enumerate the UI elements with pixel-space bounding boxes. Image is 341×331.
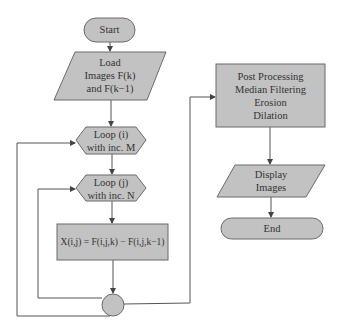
loop-j-line-2: with inc. N	[76, 189, 146, 202]
post-line-1: Post Processing	[216, 70, 325, 83]
end-label: End	[221, 222, 323, 235]
load-label-line-2: Images F(k)	[60, 69, 160, 82]
start-label: Start	[84, 23, 135, 36]
loop-i-line-1: Loop (i)	[76, 128, 146, 141]
loop-j-label: Loop (j) with inc. N	[76, 176, 146, 202]
connector-circle	[102, 294, 124, 316]
load-label-line-1: Load	[60, 56, 160, 69]
compute-label: X(i,j) = F(i,j,k) − F(i,j,k−1)	[57, 236, 168, 249]
post-line-3: Erosion	[216, 96, 325, 109]
load-label: Load Images F(k) and F(k−1)	[60, 56, 160, 95]
display-line-1: Display	[226, 168, 316, 181]
display-label: Display Images	[226, 168, 316, 194]
loop-i-label: Loop (i) with inc. M	[76, 128, 146, 154]
post-processing-label: Post Processing Median Filtering Erosion…	[216, 70, 325, 122]
post-line-2: Median Filtering	[216, 83, 325, 96]
load-label-line-3: and F(k−1)	[60, 82, 160, 95]
loop-j-line-1: Loop (j)	[76, 176, 146, 189]
flowchart-canvas	[0, 0, 341, 331]
display-line-2: Images	[226, 181, 316, 194]
loop-i-line-2: with inc. M	[76, 141, 146, 154]
post-line-4: Dilation	[216, 109, 325, 122]
